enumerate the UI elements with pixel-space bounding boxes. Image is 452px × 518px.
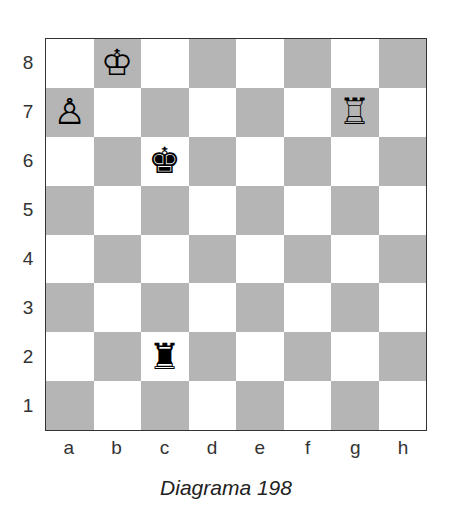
chess-board: ♔♙♖♚♜ [45, 38, 427, 431]
square-b8: ♔ [94, 39, 142, 88]
square-c3 [141, 283, 189, 332]
file-label: a [45, 434, 93, 462]
square-g4 [331, 235, 379, 284]
square-b4 [94, 235, 142, 284]
square-a6 [46, 137, 94, 186]
square-h7 [379, 88, 427, 137]
square-e4 [236, 235, 284, 284]
square-g5 [331, 186, 379, 235]
square-h1 [379, 381, 427, 430]
square-f1 [284, 381, 332, 430]
square-h5 [379, 186, 427, 235]
square-a1 [46, 381, 94, 430]
white-rook-icon: ♖ [339, 94, 371, 130]
square-f6 [284, 137, 332, 186]
square-e1 [236, 381, 284, 430]
square-h3 [379, 283, 427, 332]
square-e2 [236, 332, 284, 381]
rank-label: 7 [18, 87, 38, 136]
square-c4 [141, 235, 189, 284]
square-b1 [94, 381, 142, 430]
square-b7 [94, 88, 142, 137]
file-label: e [236, 434, 284, 462]
square-a3 [46, 283, 94, 332]
square-f5 [284, 186, 332, 235]
square-d8 [189, 39, 237, 88]
square-f2 [284, 332, 332, 381]
square-c6: ♚ [141, 137, 189, 186]
diagram-caption: Diagrama 198 [0, 476, 452, 500]
square-d7 [189, 88, 237, 137]
rank-label: 4 [18, 235, 38, 284]
square-h8 [379, 39, 427, 88]
square-a7: ♙ [46, 88, 94, 137]
square-g7: ♖ [331, 88, 379, 137]
rank-label: 2 [18, 333, 38, 382]
rank-label: 1 [18, 382, 38, 431]
file-labels: a b c d e f g h [45, 434, 427, 462]
black-rook-icon: ♜ [149, 339, 181, 375]
file-label: f [284, 434, 332, 462]
file-label: g [332, 434, 380, 462]
square-e8 [236, 39, 284, 88]
square-b6 [94, 137, 142, 186]
file-label: d [188, 434, 236, 462]
square-g2 [331, 332, 379, 381]
square-c7 [141, 88, 189, 137]
square-c2: ♜ [141, 332, 189, 381]
square-d5 [189, 186, 237, 235]
square-h6 [379, 137, 427, 186]
black-king-icon: ♚ [149, 143, 181, 179]
square-d4 [189, 235, 237, 284]
square-d6 [189, 137, 237, 186]
square-a8 [46, 39, 94, 88]
square-f7 [284, 88, 332, 137]
rank-label: 5 [18, 185, 38, 234]
square-e3 [236, 283, 284, 332]
rank-labels: 8 7 6 5 4 3 2 1 [18, 38, 38, 431]
rank-label: 3 [18, 284, 38, 333]
square-f8 [284, 39, 332, 88]
square-f3 [284, 283, 332, 332]
square-c1 [141, 381, 189, 430]
square-e6 [236, 137, 284, 186]
square-c8 [141, 39, 189, 88]
white-king-icon: ♔ [101, 45, 133, 81]
square-c5 [141, 186, 189, 235]
white-pawn-icon: ♙ [54, 94, 86, 130]
square-b3 [94, 283, 142, 332]
square-d1 [189, 381, 237, 430]
square-a4 [46, 235, 94, 284]
square-g8 [331, 39, 379, 88]
file-label: b [93, 434, 141, 462]
square-b5 [94, 186, 142, 235]
square-b2 [94, 332, 142, 381]
square-a2 [46, 332, 94, 381]
square-g6 [331, 137, 379, 186]
square-e5 [236, 186, 284, 235]
square-f4 [284, 235, 332, 284]
rank-label: 6 [18, 136, 38, 185]
square-g3 [331, 283, 379, 332]
square-h4 [379, 235, 427, 284]
square-a5 [46, 186, 94, 235]
square-g1 [331, 381, 379, 430]
file-label: h [379, 434, 427, 462]
square-h2 [379, 332, 427, 381]
square-e7 [236, 88, 284, 137]
rank-label: 8 [18, 38, 38, 87]
square-d3 [189, 283, 237, 332]
file-label: c [141, 434, 189, 462]
square-d2 [189, 332, 237, 381]
